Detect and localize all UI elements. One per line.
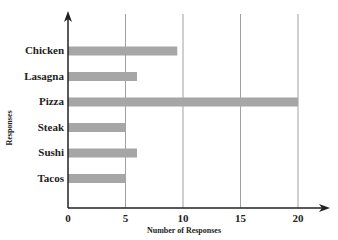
bar-steak [68,123,126,132]
category-label: Pizza [39,95,64,107]
category-label: Chicken [25,44,64,56]
x-tick-label: 15 [235,212,246,224]
x-tick-label: 20 [293,212,304,224]
bar-tacos [68,174,126,183]
category-label: Tacos [38,172,65,184]
bar-pizza [68,98,298,107]
category-label: Lasagna [24,70,64,82]
y-axis-label: Responses [5,110,14,145]
x-tick-label: 10 [178,212,189,224]
gridlines [126,14,299,208]
bar-chicken [68,47,177,56]
bar-lasagna [68,72,137,81]
x-tick-label: 0 [65,212,71,224]
category-label: Sushi [38,146,64,158]
x-tick-label: 5 [123,212,129,224]
bar-sushi [68,149,137,158]
category-label: Steak [38,121,64,133]
x-axis-label: Number of Responses [0,226,338,235]
